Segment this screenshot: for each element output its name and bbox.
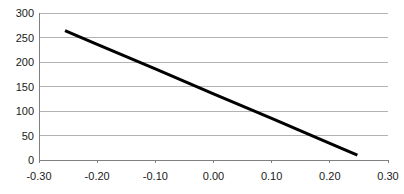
y-tick-label: 250: [16, 32, 34, 43]
y-tick-label: 50: [22, 130, 34, 141]
y-tick-label: 150: [16, 81, 34, 92]
y-tick-label: 200: [16, 57, 34, 68]
x-tick-label: 0.00: [203, 171, 224, 182]
y-tick-label: 300: [16, 8, 34, 19]
gridlines-group: [39, 13, 388, 160]
data-series-group: [65, 31, 357, 155]
x-tick-label: -0.20: [85, 171, 110, 182]
x-tick-label: -0.30: [26, 171, 51, 182]
x-tick-label: 0.20: [319, 171, 340, 182]
chart-plot-area: [0, 0, 404, 194]
series-line: [65, 31, 357, 155]
x-tick-label: 0.30: [377, 171, 398, 182]
y-tick-label: 0: [28, 155, 34, 166]
y-tick-label: 100: [16, 106, 34, 117]
chart-container: 050100150200250300 -0.30-0.20-0.100.000.…: [0, 0, 404, 194]
x-tick-label: 0.10: [261, 171, 282, 182]
x-tick-label: -0.10: [143, 171, 168, 182]
